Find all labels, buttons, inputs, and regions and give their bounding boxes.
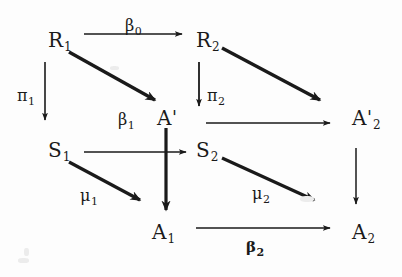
arrow-label-pi2: π2 (207, 88, 225, 107)
node-s1-subscript: 1 (62, 150, 71, 164)
arrow-label-mu2-subscript: 2 (262, 193, 270, 206)
node-a1-subscript: 1 (167, 232, 176, 246)
arrow-label-pi2-subscript: 2 (218, 95, 226, 108)
arrow-r2-to-a2prime (222, 48, 320, 100)
commutative-diagram-figure: R1 R2 A' A'2 S1 S2 A1 A2 β0 π1 π2 β1 μ1 … (0, 0, 402, 277)
node-r2-base: R (196, 28, 212, 52)
arrow-label-beta0-subscript: 0 (134, 25, 142, 38)
scan-speck (300, 196, 314, 202)
node-r2-subscript: 2 (212, 40, 221, 54)
node-s2: S2 (196, 140, 219, 163)
node-r1-base: R (48, 28, 64, 52)
node-s1: S1 (48, 140, 71, 163)
arrow-label-mu2-base: μ (252, 184, 262, 203)
node-r2: R2 (196, 30, 220, 53)
arrow-label-mu2: μ2 (252, 186, 270, 205)
node-s1-base: S (48, 138, 62, 162)
node-a2-prime-subscript: 2 (372, 118, 381, 132)
arrow-label-mu1-subscript: 1 (90, 195, 98, 208)
arrow-label-pi1-subscript: 1 (28, 95, 36, 108)
arrow-label-mu1: μ1 (80, 188, 98, 207)
scan-speck (24, 248, 29, 256)
arrow-label-pi2-base: π (207, 86, 218, 105)
arrow-label-beta1-base: β (118, 110, 127, 129)
node-a1-base: A (152, 220, 167, 244)
node-a2: A2 (352, 222, 376, 245)
node-r1: R1 (48, 30, 72, 53)
arrow-label-beta0: β0 (125, 18, 142, 37)
node-s2-subscript: 2 (210, 150, 219, 164)
node-r1-subscript: 1 (64, 40, 73, 54)
node-a2-prime-base: A (352, 106, 367, 130)
scan-speck (18, 258, 29, 263)
node-a-prime: A' (157, 108, 177, 128)
arrow-label-beta2-base: β (246, 238, 256, 256)
node-s2-base: S (196, 138, 210, 162)
arrow-label-beta0-base: β (125, 16, 134, 35)
arrow-r1-to-aprime (69, 52, 155, 100)
arrow-label-beta2: β2 (246, 240, 264, 258)
arrow-label-pi1-base: π (17, 86, 28, 105)
node-a-prime-base: A (157, 106, 172, 130)
node-a2-prime: A'2 (352, 108, 381, 131)
node-a-prime-mark: ' (172, 107, 177, 128)
node-a2-subscript: 2 (367, 232, 376, 246)
arrow-label-mu1-base: μ (80, 186, 90, 205)
scan-speck (110, 66, 119, 70)
arrow-label-beta1: β1 (118, 112, 135, 131)
node-a1: A1 (152, 222, 176, 245)
arrow-label-beta2-subscript: 2 (256, 246, 264, 259)
node-a2-base: A (352, 220, 367, 244)
arrow-label-beta1-subscript: 1 (127, 119, 135, 132)
arrow-label-pi1: π1 (17, 88, 35, 107)
